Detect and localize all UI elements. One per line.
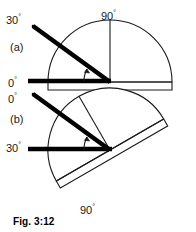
- panel-label-b: (b): [10, 114, 23, 125]
- label-a-zero: 0°: [8, 76, 17, 89]
- label-b-thirty: 30°: [6, 141, 21, 154]
- label-b-thirty-value: 30: [6, 142, 18, 154]
- degree-icon: °: [14, 92, 17, 99]
- degree-icon: °: [18, 13, 21, 20]
- figure-container: (a) (b) 30° 0° 0° 30° 90° 90° Fig. 3:12: [0, 0, 196, 232]
- label-a-thirty-value: 30: [6, 14, 18, 26]
- label-a-ninety: 90°: [101, 9, 116, 22]
- degree-icon: °: [18, 141, 21, 148]
- label-b-zero-anchor-dot: [32, 93, 35, 96]
- degree-icon: °: [14, 76, 17, 83]
- degree-icon: °: [92, 203, 95, 210]
- protractor-diagram: [0, 0, 196, 232]
- label-a-ninety-value: 90: [101, 10, 113, 22]
- degree-icon: °: [113, 9, 116, 16]
- label-b-ninety: 90°: [80, 203, 95, 216]
- label-a-thirty-anchor-dot: [32, 25, 35, 28]
- panel-label-a: (a): [10, 42, 23, 53]
- label-b-ninety-value: 90: [80, 204, 92, 216]
- label-b-zero: 0°: [8, 92, 17, 105]
- figure-caption: Fig. 3:12: [13, 216, 54, 227]
- panel-a-graphics: [28, 20, 172, 90]
- label-a-thirty: 30°: [6, 13, 21, 26]
